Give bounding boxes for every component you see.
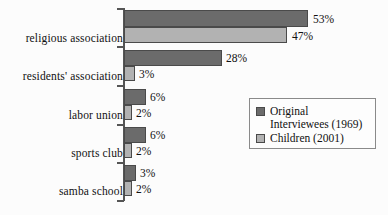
category-label-0: religious association bbox=[26, 33, 123, 45]
bar-value-series1-cat0: 47% bbox=[292, 31, 313, 43]
bar-series1-cat3 bbox=[124, 143, 132, 158]
legend-swatch-icon-series1 bbox=[256, 134, 265, 143]
legend-label-series1: Children (2001) bbox=[270, 132, 344, 145]
bar-value-series0-cat1: 28% bbox=[226, 53, 247, 65]
bar-value-series0-cat2: 6% bbox=[150, 92, 165, 104]
axis-tick-3 bbox=[117, 124, 124, 126]
bar-value-series1-cat4: 2% bbox=[136, 184, 151, 196]
legend-entry-1: Children (2001) bbox=[256, 132, 344, 145]
bar-value-series1-cat1: 3% bbox=[139, 69, 154, 81]
category-label-2: labor union bbox=[69, 110, 123, 122]
axis-tick-2 bbox=[117, 85, 124, 87]
legend-entry-0: Original Interviewees (1969) bbox=[256, 105, 362, 131]
category-label-3: sports club bbox=[71, 148, 123, 160]
axis-tick-1 bbox=[117, 46, 124, 48]
category-label-1: residents' association bbox=[23, 71, 123, 83]
bar-series1-cat0 bbox=[124, 27, 287, 43]
axis-tick-5 bbox=[117, 200, 124, 202]
bar-value-series0-cat4: 3% bbox=[140, 168, 155, 180]
bar-value-series1-cat2: 2% bbox=[136, 108, 151, 120]
bar-series0-cat3 bbox=[124, 127, 146, 143]
bar-series1-cat2 bbox=[124, 105, 132, 120]
bar-chart: religious association 53% 47% residents'… bbox=[0, 0, 388, 215]
bar-series1-cat4 bbox=[124, 181, 132, 196]
axis-tick-4 bbox=[117, 162, 124, 164]
category-label-4: samba school bbox=[59, 186, 123, 198]
bar-value-series0-cat0: 53% bbox=[313, 14, 334, 26]
bar-value-series0-cat3: 6% bbox=[150, 130, 165, 142]
legend-label-series0: Original Interviewees (1969) bbox=[270, 105, 362, 131]
legend-swatch-icon-series0 bbox=[256, 107, 265, 116]
bar-series0-cat0 bbox=[124, 10, 308, 27]
bar-series0-cat1 bbox=[124, 50, 222, 66]
bar-value-series1-cat3: 2% bbox=[136, 146, 151, 158]
bar-series0-cat4 bbox=[124, 165, 136, 181]
bar-series1-cat1 bbox=[124, 66, 135, 81]
bar-series0-cat2 bbox=[124, 89, 146, 105]
chart-legend: Original Interviewees (1969) Children (2… bbox=[249, 98, 376, 149]
axis-tick-0 bbox=[117, 8, 124, 10]
